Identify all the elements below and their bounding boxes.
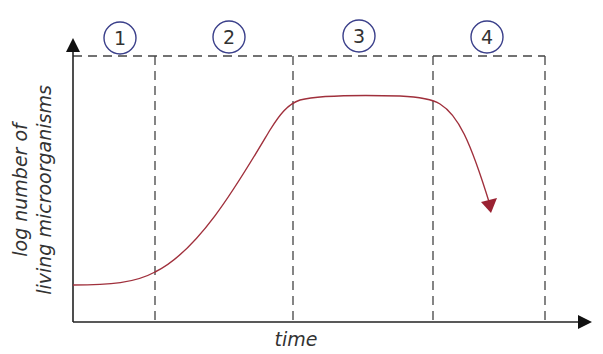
y-axis-label-line1: log number of [9,120,31,257]
phase-marker-2: 2 [213,21,245,53]
phase-number: 1 [114,27,126,49]
curve-arrowhead-icon [481,198,497,213]
phase-marker-4: 4 [471,21,503,53]
y-axis-arrow-icon [66,38,80,52]
phase-number: 3 [353,25,365,47]
x-axis-label: time [275,328,318,350]
y-axis-label-line2: living microorganisms [33,85,55,295]
phase-number: 4 [481,26,493,48]
growth-curve-diagram: 1 2 3 4 log number of living microorgani… [0,0,603,354]
phase-marker-1: 1 [104,22,136,54]
phase-marker-3: 3 [343,20,375,52]
growth-curve [73,95,490,285]
x-axis-arrow-icon [578,315,592,329]
phase-number: 2 [223,26,235,48]
